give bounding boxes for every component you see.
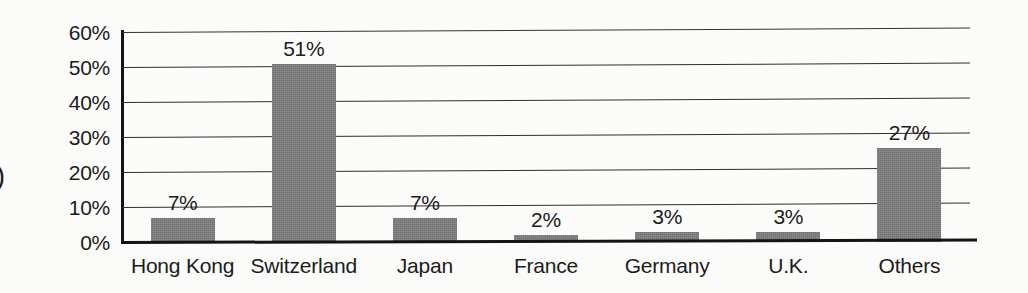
bar	[272, 64, 336, 243]
x-category-label: Others	[879, 255, 941, 276]
gridline	[122, 168, 970, 173]
y-tick-label: 50%	[69, 57, 110, 78]
bar-value-label: 7%	[168, 192, 198, 213]
gridline	[122, 28, 970, 33]
x-category-label: Hong Kong	[131, 255, 234, 276]
y-tick-label: 30%	[69, 127, 110, 148]
gridline	[122, 63, 970, 68]
y-axis-tick-labels: 60%50%40%30%20%10%0%	[34, 0, 110, 293]
bar-value-label: 7%	[410, 192, 440, 213]
bar-value-label: 51%	[283, 38, 324, 59]
y-tick-label: 10%	[69, 197, 110, 218]
x-category-label: U.K.	[768, 255, 808, 276]
bar	[877, 148, 941, 243]
bar-value-label: 27%	[889, 122, 930, 143]
bar	[393, 218, 457, 243]
gridline	[122, 133, 970, 138]
y-tick-label: 20%	[69, 162, 110, 183]
y-tick-label: 40%	[69, 92, 110, 113]
bar-chart-figure: ) 60%50%40%30%20%10%0% 7%51%7%2%3%3%27% …	[0, 0, 1028, 293]
cropped-edge-glyph: )	[0, 163, 5, 190]
x-category-label: Japan	[397, 255, 453, 276]
x-category-label: Germany	[625, 255, 710, 276]
bar	[151, 218, 215, 243]
plot-area: 7%51%7%2%3%3%27%	[122, 32, 970, 242]
bar-value-label: 3%	[652, 206, 682, 227]
y-tick-label: 60%	[69, 22, 110, 43]
x-category-label: Switzerland	[251, 255, 357, 276]
x-category-label: France	[514, 255, 578, 276]
bar-value-label: 3%	[773, 206, 803, 227]
gridline	[122, 98, 970, 103]
bar-value-label: 2%	[531, 209, 561, 230]
y-tick-label: 0%	[80, 232, 110, 253]
